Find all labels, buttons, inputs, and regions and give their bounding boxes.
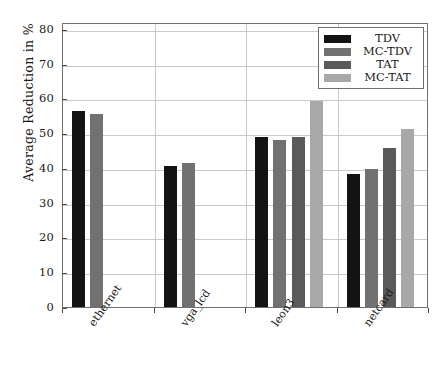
x-tick-mark [337,308,338,313]
y-tick-label: 20 [10,232,54,244]
x-tick-mark [154,308,155,313]
y-tick-mark [62,169,67,170]
gridline-vertical [246,24,247,307]
legend-label: MC-TAT [358,72,417,84]
y-tick-mark [62,134,67,135]
y-tick-label: 10 [10,267,54,279]
gridline-horizontal [63,100,427,101]
legend-entry-mc-tdv: MC-TDV [324,45,417,58]
legend-swatch-tdv [324,35,351,43]
bar-vga_lcd-mc-tdv [182,163,195,307]
legend-label: MC-TDV [358,46,417,58]
gridline-vertical [155,24,156,307]
x-tick-mark [428,308,429,313]
bar-netcard-mc-tdv [365,169,378,307]
y-tick-mark [62,273,67,274]
bar-leon3-tat [292,137,305,307]
bar-netcard-tdv [347,174,360,307]
y-tick-label: 70 [10,59,54,71]
y-tick-mark [62,204,67,205]
x-tick-mark [62,308,63,313]
bar-netcard-tat [383,148,396,307]
y-tick-label: 40 [10,163,54,175]
legend-swatch-mc-tdv [324,48,351,56]
bar-leon3-tdv [255,137,268,307]
bar-chart-figure: Average Reduction in % 01020304050607080… [0,0,436,383]
bar-netcard-mc-tat [401,129,414,307]
legend-label: TDV [358,33,417,45]
legend-entry-mc-tat: MC-TAT [324,71,417,84]
gridline-horizontal [63,135,427,136]
legend-swatch-mc-tat [324,74,351,82]
x-tick-mark [245,308,246,313]
y-tick-label: 30 [10,198,54,210]
y-tick-mark [62,30,67,31]
chart-legend: TDVMC-TDVTATMC-TAT [318,27,424,89]
legend-swatch-tat [324,61,351,69]
y-tick-mark [62,99,67,100]
y-tick-label: 0 [10,302,54,314]
y-tick-label: 50 [10,128,54,140]
y-tick-label: 60 [10,93,54,105]
legend-label: TAT [358,59,417,71]
bar-vga_lcd-tdv [164,166,177,307]
y-tick-mark [62,65,67,66]
bar-leon3-mc-tat [310,101,323,307]
y-tick-label: 80 [10,24,54,36]
y-tick-mark [62,238,67,239]
bar-leon3-mc-tdv [273,140,286,307]
bar-ethernet-mc-tdv [90,114,103,307]
bar-ethernet-tdv [72,111,85,307]
